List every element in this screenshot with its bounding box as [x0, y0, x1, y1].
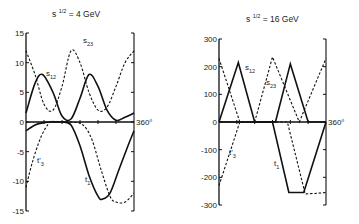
- y-tick-label: -15: [12, 207, 24, 216]
- series-s23: [26, 50, 134, 112]
- y-tick-label: -5: [17, 148, 25, 157]
- y-tick-label: -100: [201, 146, 218, 155]
- y-tick-label: 300: [204, 35, 218, 44]
- chart-title: s 1/2 = 16 GeV: [246, 13, 299, 24]
- y-tick-label: -200: [201, 173, 218, 182]
- y-tick-label: 15: [15, 29, 24, 38]
- series-s23: [219, 57, 326, 122]
- y-tick-label: -300: [201, 201, 218, 210]
- y-tick-label: 0: [20, 118, 25, 127]
- series-label: s23: [83, 36, 93, 47]
- y-tick-label: -10: [12, 177, 24, 186]
- series-label: t1: [274, 159, 279, 170]
- series-label: s12: [46, 69, 56, 80]
- series-label: t'3: [229, 148, 236, 159]
- x-end-label: 360°: [328, 118, 345, 127]
- y-tick-label: 5: [20, 88, 25, 97]
- y-tick-label: 0: [213, 118, 218, 127]
- series-s12: [219, 63, 326, 122]
- chart-panel-1: s 1/2 = 4 GeV151050-5-10-15360°s12s23t1t…: [12, 8, 152, 216]
- x-end-label: 360°: [136, 118, 153, 127]
- chart-title: s 1/2 = 4 GeV: [52, 8, 100, 19]
- chart-panel-2: s 1/2 = 16 GeV3002001000-100-200-300360°…: [201, 13, 345, 210]
- y-tick-label: 100: [204, 90, 218, 99]
- y-tick-label: 200: [204, 63, 218, 72]
- series-label: t'3: [37, 156, 44, 167]
- y-tick-label: 10: [15, 59, 24, 68]
- series-label: s12: [245, 63, 255, 74]
- series-label: s23: [266, 78, 276, 89]
- figure: s 1/2 = 4 GeV151050-5-10-15360°s12s23t1t…: [0, 0, 359, 224]
